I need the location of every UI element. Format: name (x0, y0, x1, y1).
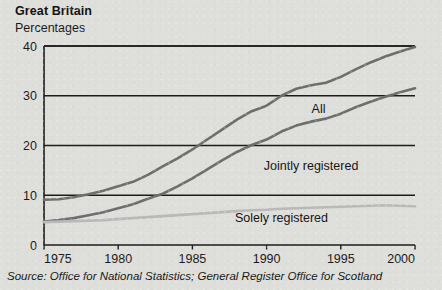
line-chart-plot: 010203040 197519801985199019952000 AllJo… (0, 0, 442, 290)
y-tick-label-30: 30 (23, 89, 37, 103)
annotation-all: All (312, 102, 326, 116)
source-note: Source: Office for National Statistics; … (7, 270, 382, 282)
annotation-jointly-registered: Jointly registered (264, 159, 359, 173)
y-tick-labels: 010203040 (23, 40, 37, 253)
y-tick-label-0: 0 (30, 239, 37, 253)
series-line-all (44, 47, 415, 200)
x-tick-labels: 197519801985199019952000 (44, 252, 415, 266)
y-tick-label-40: 40 (23, 40, 37, 54)
annotation-solely-registered: Solely registered (235, 211, 328, 225)
x-tick-label-1990: 1990 (253, 252, 281, 266)
x-tick-label-1975: 1975 (44, 252, 72, 266)
x-tick-label-2000: 2000 (387, 252, 415, 266)
y-tick-label-20: 20 (23, 139, 37, 153)
y-tick-label-10: 10 (23, 189, 37, 203)
x-tick-label-1995: 1995 (327, 252, 355, 266)
x-tick-label-1985: 1985 (178, 252, 206, 266)
series-line-jointly-registered (44, 88, 415, 221)
x-tick-label-1980: 1980 (104, 252, 132, 266)
chart-figure: Great Britain Percentages 010203040 1975… (0, 0, 442, 290)
